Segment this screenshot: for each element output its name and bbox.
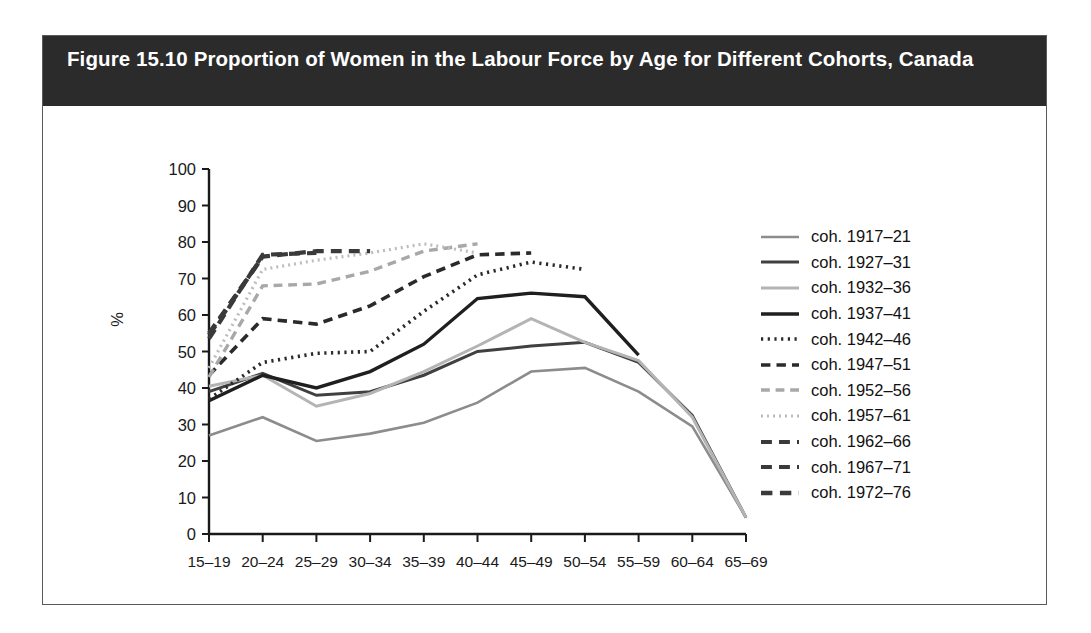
figure-title-bar: Figure 15.10 Proportion of Women in the … bbox=[43, 36, 1046, 106]
legend-label: coh. 1917–21 bbox=[811, 227, 911, 246]
figure-card: Figure 15.10 Proportion of Women in the … bbox=[42, 35, 1047, 605]
legend-item[interactable]: coh. 1927–31 bbox=[760, 250, 1015, 276]
legend-swatch-icon bbox=[760, 383, 800, 397]
y-tick-label: 40 bbox=[178, 379, 196, 397]
legend-swatch-icon bbox=[760, 307, 800, 321]
legend-swatch-icon bbox=[760, 332, 800, 346]
x-tick-label: 40–44 bbox=[456, 553, 499, 570]
legend-label: coh. 1942–46 bbox=[811, 330, 911, 349]
legend-item[interactable]: coh. 1952–56 bbox=[760, 378, 1015, 404]
y-axis-ticks: 0102030405060708090100 bbox=[168, 160, 209, 543]
legend-label: coh. 1937–41 bbox=[811, 304, 911, 323]
legend-label: coh. 1927–31 bbox=[811, 253, 911, 272]
legend-label: coh. 1947–51 bbox=[811, 355, 911, 374]
legend-swatch-icon bbox=[760, 460, 800, 474]
x-tick-label: 45–49 bbox=[510, 553, 553, 570]
y-tick-label: 30 bbox=[178, 416, 196, 434]
legend-swatch-icon bbox=[760, 255, 800, 269]
y-tick-label: 0 bbox=[187, 525, 196, 543]
x-tick-label: 35–39 bbox=[402, 553, 445, 570]
legend-item[interactable]: coh. 1972–76 bbox=[760, 480, 1015, 506]
x-tick-label: 65–69 bbox=[724, 553, 767, 570]
legend-item[interactable]: coh. 1957–61 bbox=[760, 403, 1015, 429]
series-line bbox=[209, 244, 478, 377]
legend-label: coh. 1957–61 bbox=[811, 406, 911, 425]
y-tick-label: 80 bbox=[178, 233, 196, 251]
x-tick-label: 25–29 bbox=[295, 553, 338, 570]
y-tick-label: 20 bbox=[178, 452, 196, 470]
chart-series-group bbox=[209, 244, 746, 518]
series-line bbox=[209, 257, 263, 335]
y-axis-title: % bbox=[108, 312, 126, 327]
legend-label: coh. 1952–56 bbox=[811, 381, 911, 400]
series-line bbox=[209, 253, 316, 339]
y-tick-label: 90 bbox=[178, 197, 196, 215]
legend-swatch-icon bbox=[760, 435, 800, 449]
x-tick-label: 15–19 bbox=[187, 553, 230, 570]
x-tick-label: 55–59 bbox=[617, 553, 660, 570]
legend-swatch-icon bbox=[760, 358, 800, 372]
y-tick-label: 10 bbox=[178, 489, 196, 507]
y-tick-label: 70 bbox=[178, 270, 196, 288]
x-tick-label: 60–64 bbox=[671, 553, 714, 570]
legend-label: coh. 1967–71 bbox=[811, 458, 911, 477]
legend-item[interactable]: coh. 1917–21 bbox=[760, 224, 1015, 250]
x-tick-label: 50–54 bbox=[563, 553, 606, 570]
y-tick-label: 100 bbox=[168, 160, 196, 178]
page-title: Figure 15.10 Proportion of Women in the … bbox=[67, 45, 1022, 72]
legend-item[interactable]: coh. 1937–41 bbox=[760, 301, 1015, 327]
legend-item[interactable]: coh. 1962–66 bbox=[760, 429, 1015, 455]
legend-item[interactable]: coh. 1932–36 bbox=[760, 275, 1015, 301]
legend-swatch-icon bbox=[760, 486, 800, 500]
series-line bbox=[209, 253, 531, 375]
x-tick-label: 20–24 bbox=[241, 553, 284, 570]
series-line bbox=[209, 319, 746, 518]
chart-legend: coh. 1917–21coh. 1927–31coh. 1932–36coh.… bbox=[760, 224, 1015, 506]
legend-item[interactable]: coh. 1942–46 bbox=[760, 326, 1015, 352]
legend-label: coh. 1932–36 bbox=[811, 278, 911, 297]
y-tick-label: 60 bbox=[178, 306, 196, 324]
legend-swatch-icon bbox=[760, 230, 800, 244]
x-axis-ticks: 15–1920–2425–2930–3435–3940–4445–4950–54… bbox=[187, 534, 767, 570]
legend-item[interactable]: coh. 1947–51 bbox=[760, 352, 1015, 378]
x-tick-label: 30–34 bbox=[349, 553, 392, 570]
legend-label: coh. 1972–76 bbox=[811, 483, 911, 502]
chart-area: 0102030405060708090100%15–1920–2425–2930… bbox=[43, 106, 1046, 605]
legend-item[interactable]: coh. 1967–71 bbox=[760, 454, 1015, 480]
legend-label: coh. 1962–66 bbox=[811, 432, 911, 451]
legend-swatch-icon bbox=[760, 409, 800, 423]
legend-swatch-icon bbox=[760, 281, 800, 295]
y-tick-label: 50 bbox=[178, 343, 196, 361]
